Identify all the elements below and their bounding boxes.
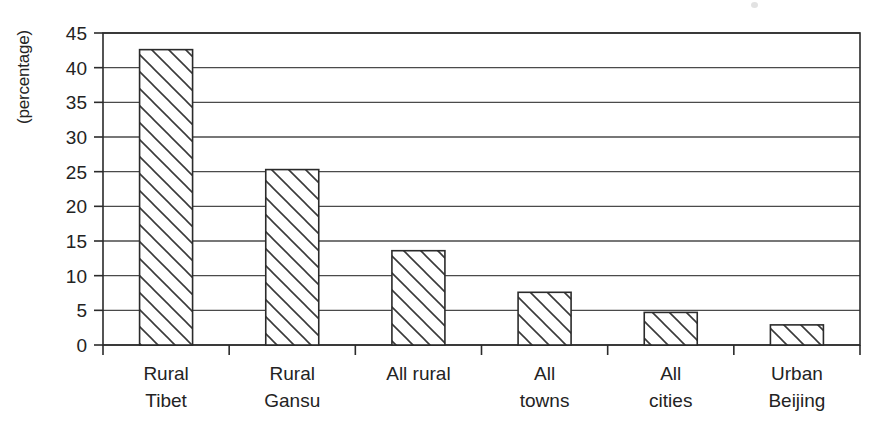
bar-fill	[770, 325, 823, 345]
bar	[770, 325, 823, 345]
x-category-label: Urban	[771, 363, 823, 384]
y-tick-label: 40	[66, 58, 87, 79]
x-category-label: All	[660, 363, 681, 384]
y-axis-ticks: 051015202530354045	[66, 23, 103, 356]
x-category-label: towns	[520, 390, 570, 411]
y-tick-label: 25	[66, 162, 87, 183]
bar-fill	[518, 292, 571, 345]
x-category-label: cities	[649, 390, 692, 411]
y-tick-label: 15	[66, 231, 87, 252]
y-tick-label: 30	[66, 127, 87, 148]
bar-fill	[266, 170, 319, 345]
bar-fill	[140, 50, 193, 345]
bar	[518, 292, 571, 345]
bar	[392, 251, 445, 345]
bar-chart-figure: (percentage) 051015202530354045 RuralTib…	[0, 0, 883, 434]
x-axis-category-labels: RuralTibetRuralGansuAll ruralAlltownsAll…	[143, 363, 825, 411]
y-tick-label: 45	[66, 23, 87, 44]
chart-plot-area: 051015202530354045 RuralTibetRuralGansuA…	[0, 0, 883, 434]
y-tick-label: 0	[76, 335, 87, 356]
x-category-label: Gansu	[264, 390, 320, 411]
bar-fill	[644, 312, 697, 345]
plot-background	[103, 33, 860, 345]
y-tick-label: 20	[66, 196, 87, 217]
bar	[266, 170, 319, 345]
x-axis-ticks	[103, 345, 860, 355]
x-category-label: Tibet	[145, 390, 187, 411]
x-category-label: Rural	[143, 363, 188, 384]
x-category-label: All rural	[386, 363, 450, 384]
x-category-label: All	[534, 363, 555, 384]
y-tick-label: 35	[66, 92, 87, 113]
bar	[140, 50, 193, 345]
bar	[644, 312, 697, 345]
x-category-label: Beijing	[768, 390, 825, 411]
x-category-label: Rural	[270, 363, 315, 384]
y-tick-label: 5	[76, 300, 87, 321]
y-tick-label: 10	[66, 266, 87, 287]
bar-fill	[392, 251, 445, 345]
